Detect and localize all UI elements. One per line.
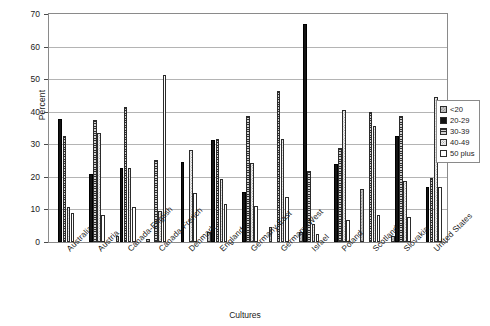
x-tick-label: Austria <box>96 228 121 253</box>
legend-swatch <box>440 139 447 146</box>
x-tick-label: England <box>218 225 246 253</box>
x-tick-label: Denmark <box>187 223 217 253</box>
legend-label: 30-39 <box>450 128 469 136</box>
legend-item: 40-49 <box>440 137 475 148</box>
legend-swatch <box>440 106 447 113</box>
x-tick-label: Australia <box>65 224 95 254</box>
legend-swatch <box>440 128 447 135</box>
x-tick-label: Scotland <box>371 224 400 253</box>
legend-label: 20-29 <box>450 117 469 125</box>
legend: <2020-2930-3940-4950 plus <box>436 100 480 163</box>
legend-swatch <box>440 117 447 124</box>
legend-label: <20 <box>450 106 463 114</box>
legend-swatch <box>440 150 447 157</box>
x-tick-label: Slovakia <box>402 225 431 254</box>
x-tick-label: Poland <box>340 229 365 254</box>
legend-label: 40-49 <box>450 139 469 147</box>
legend-item: 20-29 <box>440 115 475 126</box>
x-axis-title: Cultures <box>0 310 490 320</box>
legend-label: 50 plus <box>450 150 475 158</box>
x-tick-label: United States <box>432 211 474 253</box>
legend-item: <20 <box>440 104 475 115</box>
legend-item: 30-39 <box>440 126 475 137</box>
x-axis-labels: AustraliaAustriaCanada-EnglishCanada-Fre… <box>0 0 490 326</box>
legend-item: 50 plus <box>440 148 475 159</box>
bar-chart: Percent 010203040506070 AustraliaAustria… <box>0 0 490 326</box>
x-tick-label: Israel <box>310 232 331 253</box>
